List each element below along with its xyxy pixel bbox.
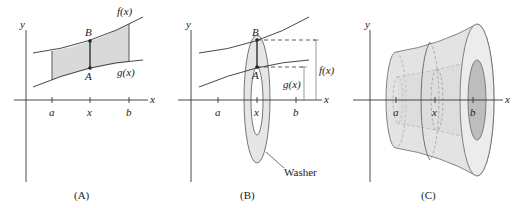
caption-a: (A) <box>74 189 90 202</box>
outer-radius-label: f(x) <box>319 64 335 77</box>
washer-pointer <box>266 152 284 168</box>
tick-label-a: a <box>215 106 221 118</box>
point-a-label: A <box>84 70 92 82</box>
tick-label-b: b <box>470 106 476 118</box>
x-axis-label: x <box>323 93 329 105</box>
tick-label-x: x <box>253 106 259 118</box>
tick-label-x: x <box>431 106 437 118</box>
inner-radius-label: g(x) <box>283 78 301 91</box>
panel-c: y x a x b (C) <box>353 18 510 202</box>
tick-label-b: b <box>293 106 299 118</box>
caption-b: (B) <box>240 189 255 202</box>
point-b <box>255 38 259 42</box>
caption-c: (C) <box>421 189 436 202</box>
tick-label-a: a <box>393 106 399 118</box>
panel-a: y x a x b f(x) g(x) B A (A) <box>14 5 155 202</box>
point-b-label: B <box>85 26 92 38</box>
panel-b: y x a x b B A f(x) g(x) Washer (B) <box>178 17 335 202</box>
x-axis-label: x <box>149 93 155 105</box>
x-axis-label: x <box>504 93 510 105</box>
y-axis-label: y <box>185 18 191 30</box>
tick-label-x: x <box>86 106 92 118</box>
point-a-label: A <box>251 69 259 81</box>
tick-label-a: a <box>49 106 55 118</box>
curve-g-label: g(x) <box>117 66 135 79</box>
washer-label: Washer <box>284 166 317 178</box>
tick-label-b: b <box>126 106 132 118</box>
point-b-label: B <box>252 26 259 38</box>
y-axis-label: y <box>19 18 25 30</box>
curve-f-label: f(x) <box>117 5 133 18</box>
washer-method-figure: y x a x b f(x) g(x) B A (A) <box>0 0 518 208</box>
y-axis-label: y <box>364 18 370 30</box>
point-b <box>88 39 92 43</box>
